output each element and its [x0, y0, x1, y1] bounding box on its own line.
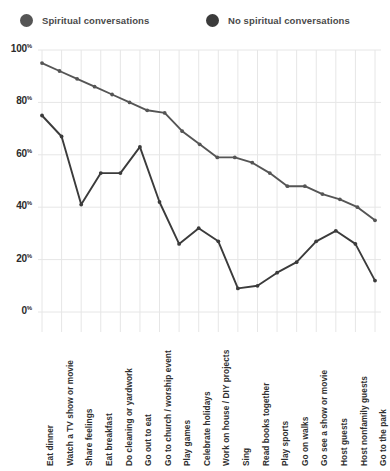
data-point — [303, 184, 307, 188]
y-axis-tick-label: 80% — [2, 95, 32, 106]
data-point — [256, 284, 260, 288]
data-point — [110, 93, 114, 97]
x-axis-tick-label: Go to church / worship event — [163, 350, 173, 466]
x-axis-tick-label: Share feelings — [84, 409, 94, 466]
x-axis-tick-label: Play games — [182, 420, 192, 466]
y-axis-tick-label: 0% — [2, 305, 32, 316]
data-point — [93, 85, 97, 89]
chart-svg — [0, 0, 390, 471]
x-axis-tick-label: Play sports — [280, 421, 290, 466]
x-axis-tick-label: Host nonfamily guests — [359, 376, 369, 466]
data-point — [158, 200, 162, 204]
data-point — [250, 161, 254, 165]
x-axis-tick-label: Work on house / DIY projects — [221, 350, 231, 466]
data-point — [268, 171, 272, 175]
series-layer — [40, 61, 377, 290]
data-point — [275, 271, 279, 275]
data-point — [40, 114, 44, 118]
data-point — [215, 156, 219, 160]
x-axis-tick-label: Read books together — [261, 383, 271, 466]
series-line-1 — [42, 116, 375, 289]
x-axis-tick-label: Watch a TV show or movie — [65, 360, 75, 466]
x-axis-tick-label: Go out to eat — [143, 414, 153, 466]
data-point — [60, 135, 64, 139]
x-axis-tick-label: Eat dinner — [45, 425, 55, 466]
x-axis-tick-label: Go see a show or movie — [319, 370, 329, 466]
data-point — [233, 156, 237, 160]
data-point — [119, 171, 123, 175]
x-axis-tick-label: Go on walks — [300, 417, 310, 466]
x-axis-tick-label: Go to the park — [378, 409, 388, 466]
data-point — [338, 197, 342, 201]
data-point — [163, 111, 167, 115]
data-point — [145, 108, 149, 112]
y-axis-tick-label: 20% — [2, 253, 32, 264]
x-axis-tick-label: Sing — [241, 448, 251, 466]
data-point — [197, 226, 201, 230]
x-axis-tick-label: Celebrate holidays — [202, 391, 212, 466]
data-point — [373, 279, 377, 283]
data-point — [356, 205, 360, 209]
data-point — [198, 142, 202, 146]
data-point — [295, 260, 299, 264]
data-point — [180, 129, 184, 133]
chart-container: Spiritual conversations No spiritual con… — [0, 0, 390, 471]
data-point — [128, 101, 132, 105]
plot-area: 100%80%60%40%20%0% Eat dinnerWatch a TV … — [0, 0, 390, 471]
data-point — [99, 171, 103, 175]
series-line-0 — [42, 63, 375, 220]
data-point — [138, 145, 142, 149]
data-point — [40, 61, 44, 65]
data-point — [314, 239, 318, 243]
y-axis-tick-label: 100% — [2, 43, 32, 54]
data-point — [321, 192, 325, 196]
x-axis-tick-label: Host guests — [339, 418, 349, 466]
data-point — [373, 218, 377, 222]
data-point — [75, 77, 79, 81]
data-point — [236, 287, 240, 291]
y-axis-tick-label: 60% — [2, 148, 32, 159]
x-axis-tick-label: Eat breakfast — [104, 413, 114, 466]
y-axis-tick-label: 40% — [2, 200, 32, 211]
data-point — [58, 69, 62, 73]
data-point — [334, 229, 338, 233]
data-point — [177, 242, 181, 246]
x-axis-tick-label: Do cleaning or yardwork — [124, 368, 134, 466]
data-point — [286, 184, 290, 188]
data-point — [354, 242, 358, 246]
data-point — [216, 239, 220, 243]
data-point — [79, 203, 83, 207]
